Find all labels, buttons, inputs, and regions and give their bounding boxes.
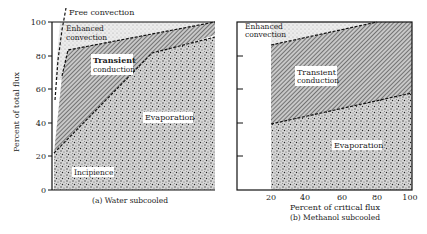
label-free-convection: Free convection bbox=[69, 8, 134, 17]
xtick-40: 40 bbox=[300, 193, 310, 202]
xtick-80: 80 bbox=[372, 193, 382, 202]
label-transient-a-1: Transient bbox=[93, 55, 136, 65]
caption-b: (b) Methanol subcooled bbox=[290, 213, 380, 222]
label-enhanced-a-2: convection bbox=[66, 33, 107, 42]
ytick-40: 40 bbox=[36, 119, 46, 128]
label-transient-a-2: conduction bbox=[93, 65, 135, 74]
y-axis-label-a: Percent of total flux bbox=[12, 71, 21, 152]
ytick-100: 100 bbox=[31, 18, 46, 27]
figure: 0 20 40 60 80 100 Percent of total flux … bbox=[0, 0, 427, 234]
x-axis-label-b: Percent of critical flux bbox=[290, 203, 381, 212]
chart-a: 0 20 40 60 80 100 Percent of total flux … bbox=[12, 8, 215, 205]
label-incipience: Incipience bbox=[74, 168, 114, 177]
label-enhanced-b-2: convection bbox=[245, 30, 286, 39]
label-evaporation-b: Evaporation bbox=[334, 141, 383, 150]
xtick-20: 20 bbox=[266, 193, 276, 202]
ytick-0: 0 bbox=[41, 186, 46, 195]
xtick-60: 60 bbox=[337, 193, 347, 202]
ytick-60: 60 bbox=[36, 85, 46, 94]
xtick-100: 100 bbox=[402, 193, 417, 202]
label-evaporation-a: Evaporation bbox=[145, 113, 194, 122]
caption-a: (a) Water subcooled bbox=[92, 196, 168, 205]
ytick-80: 80 bbox=[36, 52, 46, 61]
ytick-20: 20 bbox=[36, 152, 46, 161]
chart-b: 20 40 60 80 100 Percent of critical flux… bbox=[237, 22, 418, 222]
label-transient-b-2: conduction bbox=[297, 76, 339, 85]
label-enhanced-a-1: Enhanced bbox=[66, 24, 104, 33]
